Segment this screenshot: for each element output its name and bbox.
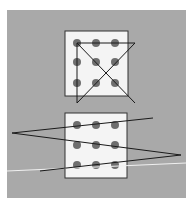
dot bbox=[92, 141, 100, 149]
top-puzzle bbox=[65, 31, 135, 103]
dot bbox=[111, 58, 119, 66]
dot bbox=[111, 141, 119, 149]
dot bbox=[92, 121, 100, 129]
dot bbox=[73, 121, 81, 129]
nine-dots-figure bbox=[0, 0, 192, 204]
